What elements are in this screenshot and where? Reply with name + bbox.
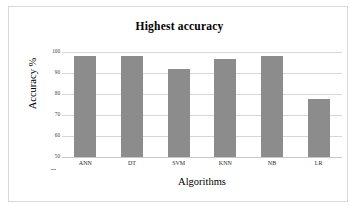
axis-origin-mark [51, 169, 56, 170]
bar-lr [308, 99, 330, 157]
x-tick-label-ann: ANN [62, 160, 108, 166]
bar-dt [121, 56, 143, 157]
y-tick-label-100: 100 [44, 49, 60, 54]
chart-figure: Highest accuracy 5060708090100 ANNDTSVMK… [0, 0, 359, 215]
y-tick-label-80: 80 [44, 91, 60, 96]
bar-knn [214, 59, 236, 157]
x-axis-title: Algorithms [62, 176, 342, 187]
y-axis-title: Accuracy % [27, 34, 38, 134]
y-tick-label-90: 90 [44, 70, 60, 75]
x-tick-label-dt: DT [109, 160, 155, 166]
bar-svm [168, 69, 190, 157]
y-tick-label-60: 60 [44, 133, 60, 138]
bar-nb [261, 56, 283, 157]
chart-title: Highest accuracy [0, 20, 359, 32]
x-tick-label-nb: NB [249, 160, 295, 166]
y-tick-label-70: 70 [44, 112, 60, 117]
y-axis-tick-labels: 5060708090100 [42, 52, 60, 157]
gridline-50 [62, 157, 342, 158]
bar-series [62, 52, 342, 157]
x-tick-label-svm: SVM [156, 160, 202, 166]
plot-area [62, 52, 342, 157]
x-tick-label-lr: LR [296, 160, 342, 166]
y-tick-label-50: 50 [44, 154, 60, 159]
bar-ann [74, 56, 96, 157]
x-tick-label-knn: KNN [202, 160, 248, 166]
x-axis-tick-labels: ANNDTSVMKNNNBLR [62, 160, 342, 172]
